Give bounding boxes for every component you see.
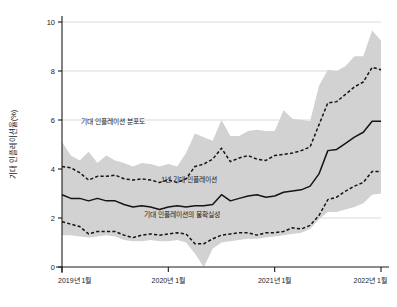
x-axis-ticks: 2019년 1월2020년 1월2021년 1월2022년 1월	[58, 267, 387, 284]
x-tick-label-3: 2022년 1월	[354, 276, 387, 284]
y-axis-title-text: 기대 인플레이션율(%)	[8, 109, 18, 179]
annotation-label-2: 기대 인플레이션의 불확실성	[144, 210, 220, 219]
y-tick-label-0: 0	[51, 263, 55, 272]
y-tick-label-6: 6	[51, 116, 55, 125]
y-tick-label-2: 2	[51, 214, 55, 223]
y-tick-label-10: 10	[47, 18, 55, 27]
x-tick-label-1: 2020년 1월	[152, 276, 185, 284]
x-tick-label-0: 2019년 1월	[58, 276, 91, 284]
y-axis-title: 기대 인플레이션율(%)	[8, 109, 18, 179]
y-tick-label-8: 8	[51, 67, 55, 76]
expected-inflation-chart: 0246810 2019년 1월2020년 1월2021년 1월2022년 1월…	[0, 0, 397, 307]
annotation-label-1: 1년 기대 인플레이션	[161, 175, 217, 184]
y-tick-label-4: 4	[51, 165, 55, 174]
chart-canvas: 0246810 2019년 1월2020년 1월2021년 1월2022년 1월…	[0, 0, 397, 307]
y-axis-ticks: 0246810	[47, 18, 62, 272]
annotation-label-0: 기대 인플레이션 분포도	[81, 117, 145, 126]
x-tick-label-2: 2021년 1월	[258, 276, 291, 284]
